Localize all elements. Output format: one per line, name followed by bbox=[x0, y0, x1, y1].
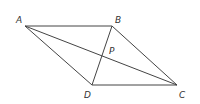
intersection-label-p: P bbox=[109, 46, 115, 56]
vertex-label-b: B bbox=[115, 15, 121, 25]
vertex-label-c: C bbox=[179, 90, 186, 100]
parallelogram-diagram: A B C D P bbox=[0, 0, 200, 104]
vertex-label-a: A bbox=[15, 15, 22, 25]
vertex-label-d: D bbox=[84, 90, 91, 100]
side-da bbox=[25, 26, 92, 85]
diagonal-ac bbox=[25, 26, 177, 85]
side-bc bbox=[112, 26, 177, 85]
